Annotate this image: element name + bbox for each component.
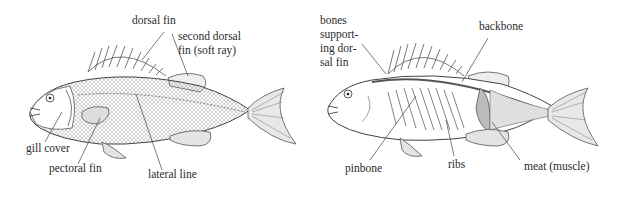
- label-meat-muscle: meat (muscle): [524, 160, 589, 172]
- label-pectoral-fin: pectoral fin: [49, 162, 102, 174]
- label-bones-line3: ing dor-: [320, 42, 357, 54]
- label-second-dorsal-fin-line2: fin (soft ray): [178, 44, 236, 56]
- internal-fish-diagram: bones support- ing dor- sal fin backbone…: [312, 0, 624, 197]
- label-pinbone: pinbone: [345, 162, 382, 174]
- external-fish-diagram: dorsal fin second dorsal fin (soft ray) …: [0, 0, 312, 197]
- label-ribs: ribs: [448, 158, 465, 170]
- label-second-dorsal-fin: second dorsal: [178, 30, 241, 42]
- label-gill-cover: gill cover: [26, 142, 70, 154]
- label-bones-supporting-dorsal-fin: bones: [320, 14, 347, 26]
- label-dorsal-fin: dorsal fin: [132, 14, 176, 26]
- label-lateral-line: lateral line: [148, 168, 197, 180]
- label-bones-line4: sal fin: [320, 56, 348, 68]
- label-bones-line2: support-: [320, 28, 358, 40]
- label-backbone: backbone: [479, 20, 523, 32]
